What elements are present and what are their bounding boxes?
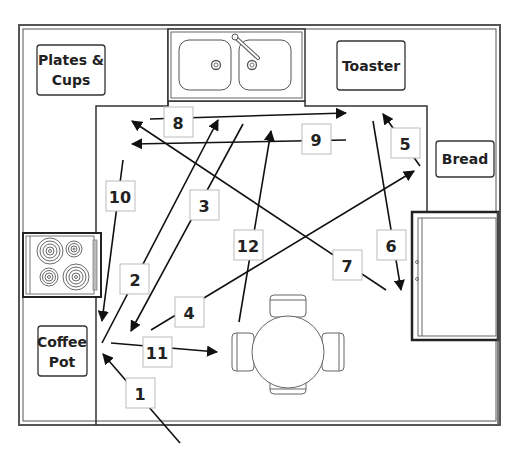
- plates-and-cups-box: Plates & Cups: [37, 45, 105, 95]
- label-3: 3: [190, 190, 219, 220]
- coffee-pot-box: Coffee Pot: [37, 326, 87, 376]
- svg-text:9: 9: [310, 131, 321, 150]
- label-11: 11: [143, 337, 172, 367]
- plates-label-line1: Plates &: [38, 52, 104, 68]
- label-5: 5: [391, 128, 420, 158]
- coffee-label-line2: Pot: [49, 354, 76, 370]
- svg-text:12: 12: [237, 237, 259, 256]
- svg-text:7: 7: [341, 257, 352, 276]
- sink: [168, 29, 305, 101]
- svg-text:6: 6: [385, 237, 396, 256]
- toaster-box: Toaster: [337, 41, 405, 90]
- stove: [23, 233, 101, 297]
- bread-label: Bread: [442, 151, 489, 167]
- plates-label-line2: Cups: [52, 72, 91, 88]
- label-8: 8: [164, 107, 193, 137]
- label-10: 10: [106, 181, 135, 211]
- svg-text:4: 4: [183, 304, 194, 323]
- svg-text:5: 5: [399, 135, 410, 154]
- svg-text:3: 3: [198, 197, 209, 216]
- label-1: 1: [126, 378, 155, 408]
- path-12-arrow: [239, 131, 271, 322]
- svg-text:2: 2: [129, 271, 140, 290]
- label-4: 4: [175, 297, 204, 327]
- label-7: 7: [333, 250, 362, 280]
- svg-text:8: 8: [172, 114, 183, 133]
- svg-text:1: 1: [134, 385, 145, 404]
- label-2: 2: [120, 264, 149, 294]
- label-6: 6: [377, 230, 406, 260]
- coffee-label-line1: Coffee: [37, 334, 87, 350]
- kitchen-diagram: Plates & Cups Toaster Bread Cof: [0, 0, 520, 465]
- svg-text:10: 10: [109, 188, 131, 207]
- label-12: 12: [234, 230, 263, 260]
- table-with-chairs: [232, 295, 344, 394]
- svg-text:11: 11: [146, 344, 168, 363]
- bread-box: Bread: [436, 141, 494, 177]
- toaster-label: Toaster: [342, 58, 400, 74]
- label-9: 9: [302, 124, 331, 154]
- refrigerator: [412, 212, 498, 425]
